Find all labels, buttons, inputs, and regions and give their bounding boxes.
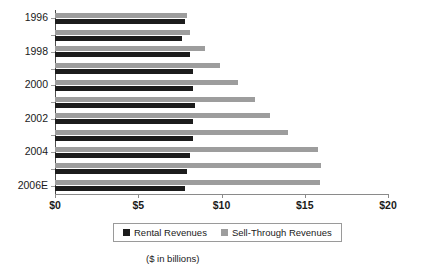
bar-rental-2005 [55, 169, 187, 174]
bar-sell-through-1997 [55, 30, 190, 35]
y-axis-label-1996: 1996 [0, 12, 48, 23]
legend-entry-rental: Rental Revenues [123, 227, 207, 238]
y-tick [51, 135, 55, 136]
y-axis-label-1998: 1998 [0, 46, 48, 57]
x-tick [55, 194, 56, 198]
y-tick [51, 85, 55, 86]
bar-rental-1999 [55, 69, 193, 74]
legend-label-rental: Rental Revenues [134, 227, 207, 238]
bar-rental-2001 [55, 103, 195, 108]
legend-label-sell-through: Sell-Through Revenues [232, 227, 332, 238]
bar-sell-through-1996 [55, 13, 187, 18]
bar-rental-2006E [55, 186, 185, 191]
y-tick [51, 152, 55, 153]
plot-area [55, 10, 388, 194]
legend-entry-sell-through: Sell-Through Revenues [221, 227, 332, 238]
bar-sell-through-1999 [55, 63, 220, 68]
y-axis-label-2004: 2004 [0, 146, 48, 157]
bar-sell-through-2002 [55, 113, 270, 118]
y-tick [51, 102, 55, 103]
y-tick [51, 52, 55, 53]
y-axis-label-2000: 2000 [0, 79, 48, 90]
bar-rental-2002 [55, 119, 193, 124]
x-tick [138, 194, 139, 198]
bar-chart: 199619982000200220042006E $0$5$10$15$20 … [0, 0, 434, 280]
y-tick [51, 69, 55, 70]
bar-sell-through-2006E [55, 180, 320, 185]
y-tick [51, 186, 55, 187]
bar-rental-2000 [55, 86, 193, 91]
bar-sell-through-2004 [55, 147, 318, 152]
bar-rental-1996 [55, 19, 185, 24]
bar-sell-through-2003 [55, 130, 288, 135]
x-axis-label-$5: $5 [132, 199, 144, 211]
chart-caption: ($ in billions) [146, 253, 199, 264]
x-axis-label-$0: $0 [49, 199, 61, 211]
bar-rental-2004 [55, 153, 190, 158]
y-axis-label-2006E: 2006E [0, 180, 48, 191]
y-tick [51, 169, 55, 170]
bar-sell-through-1998 [55, 46, 205, 51]
bar-sell-through-2000 [55, 80, 238, 85]
sell-through-swatch-icon [221, 229, 228, 236]
x-axis-label-$15: $15 [296, 199, 314, 211]
y-tick [51, 119, 55, 120]
bar-sell-through-2001 [55, 97, 255, 102]
rental-swatch-icon [123, 229, 130, 236]
x-tick [388, 194, 389, 198]
y-tick [51, 18, 55, 19]
x-axis-label-$20: $20 [379, 199, 397, 211]
bar-rental-1997 [55, 36, 182, 41]
x-tick [222, 194, 223, 198]
y-tick [51, 35, 55, 36]
x-tick [305, 194, 306, 198]
x-axis-label-$10: $10 [213, 199, 231, 211]
bar-rental-2003 [55, 136, 193, 141]
bar-rental-1998 [55, 52, 190, 57]
bar-sell-through-2005 [55, 163, 321, 168]
chart-legend: Rental Revenues Sell-Through Revenues [113, 223, 342, 242]
y-axis-label-2002: 2002 [0, 113, 48, 124]
